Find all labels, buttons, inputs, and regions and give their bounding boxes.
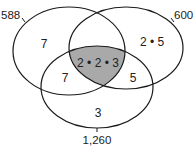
set-label-600: 600 bbox=[174, 9, 193, 21]
set-label-588: 588 bbox=[1, 9, 20, 21]
venn-diagram: 588 600 1,260 7 2 • 5 3 7 5 2 • 2 • 3 bbox=[0, 0, 194, 151]
leader-588 bbox=[22, 18, 25, 22]
region-b-only: 2 • 5 bbox=[140, 35, 165, 49]
region-a-only: 7 bbox=[41, 37, 48, 51]
region-a-b-c: 2 • 2 • 3 bbox=[77, 56, 119, 70]
region-a-and-c: 7 bbox=[62, 71, 69, 85]
set-label-1260: 1,260 bbox=[83, 134, 112, 146]
region-c-only: 3 bbox=[95, 106, 102, 120]
region-b-and-c: 5 bbox=[130, 71, 137, 85]
